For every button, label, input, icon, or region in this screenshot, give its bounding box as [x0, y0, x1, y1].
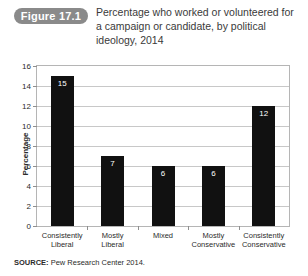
bar-value-label: 15	[51, 79, 74, 88]
y-tick-label: 0	[27, 222, 31, 231]
y-tick-mark	[33, 126, 37, 127]
y-tick-label: 12	[22, 102, 31, 111]
y-tick-label: 4	[27, 182, 31, 191]
x-tick-mark	[87, 226, 88, 230]
figure-number-badge: Figure 17.1	[14, 8, 88, 24]
y-tick-label: 16	[22, 62, 31, 71]
bar: 7	[101, 156, 124, 226]
x-axis-category-label: ConsistentlyLiberal	[37, 231, 87, 249]
bar-value-label: 6	[152, 169, 175, 178]
source-label: SOURCE:	[14, 258, 49, 267]
x-axis-label-line: Mixed	[138, 231, 188, 240]
y-tick-mark	[33, 226, 37, 227]
bar-chart: Percentage 0246810121416 1576612 Consist…	[0, 56, 308, 252]
x-axis-category-label: ConsistentlyConservative	[239, 231, 289, 249]
x-axis-category-label: Mixed	[138, 231, 188, 240]
y-tick-mark	[33, 206, 37, 207]
x-tick-mark	[138, 226, 139, 230]
y-tick-mark	[33, 66, 37, 67]
x-axis-label-line: Liberal	[87, 240, 137, 249]
figure-title: Percentage who worked or volunteered for…	[96, 5, 302, 47]
gridline	[37, 126, 289, 127]
x-axis-label-line: Consistently	[239, 231, 289, 240]
gridline	[37, 146, 289, 147]
bar: 12	[252, 106, 275, 226]
x-axis-label-line: Conservative	[239, 240, 289, 249]
x-axis-label-line: Consistently	[37, 231, 87, 240]
bar-value-label: 12	[252, 109, 275, 118]
x-axis-category-label: MostlyLiberal	[87, 231, 137, 249]
y-tick-label: 6	[27, 162, 31, 171]
source-text: Pew Research Center 2014.	[51, 258, 145, 267]
x-axis-category-label: MostlyConservative	[188, 231, 238, 249]
y-tick-mark	[33, 146, 37, 147]
y-tick-mark	[33, 86, 37, 87]
source-note: SOURCE: Pew Research Center 2014.	[14, 258, 145, 267]
bar: 15	[51, 76, 74, 226]
figure-header: Figure 17.1 Percentage who worked or vol…	[0, 0, 308, 56]
x-axis-label-line: Mostly	[188, 231, 238, 240]
bar: 6	[152, 166, 175, 226]
bar-value-label: 7	[101, 159, 124, 168]
gridline	[37, 106, 289, 107]
y-tick-label: 8	[27, 142, 31, 151]
x-axis-label-line: Conservative	[188, 240, 238, 249]
x-axis-label-line: Liberal	[37, 240, 87, 249]
y-tick-mark	[33, 186, 37, 187]
bar-value-label: 6	[202, 169, 225, 178]
y-tick-label: 10	[22, 122, 31, 131]
plot-area: 0246810121416 1576612 ConsistentlyLibera…	[36, 65, 290, 227]
y-tick-mark	[33, 106, 37, 107]
x-axis-label-line: Mostly	[87, 231, 137, 240]
bar: 6	[202, 166, 225, 226]
gridline	[37, 86, 289, 87]
y-tick-mark	[33, 166, 37, 167]
y-tick-label: 2	[27, 202, 31, 211]
y-tick-label: 14	[22, 82, 31, 91]
x-tick-mark	[188, 226, 189, 230]
x-tick-mark	[239, 226, 240, 230]
